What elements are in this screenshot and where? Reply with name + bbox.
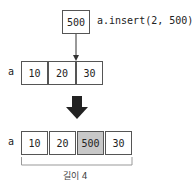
insert-arrow-icon (70, 34, 82, 62)
cell-value: 20 (56, 68, 68, 79)
after-var-label: a (8, 136, 14, 147)
cell-value: 10 (28, 68, 40, 79)
cell-value: 30 (83, 68, 95, 79)
cell-value: 30 (112, 138, 124, 149)
after-cell-1: 20 (49, 131, 76, 155)
insert-code: a.insert(2, 500) (97, 15, 192, 26)
insert-value-box: 500 (62, 10, 90, 34)
after-cell-2-inserted: 500 (77, 131, 104, 155)
down-arrow-icon (66, 96, 88, 120)
before-cell-2: 30 (76, 61, 103, 85)
after-cell-3: 30 (105, 131, 132, 155)
cell-value: 20 (56, 138, 68, 149)
cell-value: 10 (28, 138, 40, 149)
insert-value: 500 (67, 17, 85, 28)
after-cell-0: 10 (21, 131, 48, 155)
cell-value: 500 (81, 138, 99, 149)
before-cell-1: 20 (48, 61, 76, 85)
before-cell-0: 10 (21, 61, 48, 85)
length-bracket (21, 157, 133, 167)
before-var-label: a (8, 66, 14, 77)
length-caption: 길이 4 (63, 169, 88, 182)
